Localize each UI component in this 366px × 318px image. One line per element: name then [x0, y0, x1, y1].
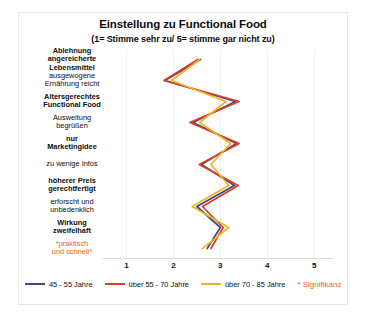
category-label-line: zu wenige Infos — [41, 160, 103, 169]
chart-title: Einstellung zu Functional Food — [19, 18, 347, 30]
category-label-8: Wirkungzweifelhaft — [41, 219, 103, 236]
category-axis-labels: AblehnungangereicherteLebensmittelausgew… — [41, 49, 103, 259]
legend-swatch-icon — [201, 283, 221, 285]
legend-item-0[interactable]: 45 - 55 Jahre — [25, 280, 93, 289]
series-line-0 — [165, 60, 236, 249]
value-tick-5: 5 — [304, 261, 324, 270]
value-tick-2: 2 — [163, 261, 183, 270]
category-label-9: *praktischund schnell* — [41, 240, 103, 257]
value-axis-labels: 12345 — [103, 261, 333, 273]
series-lines — [103, 49, 333, 259]
legend-label: 45 - 55 Jahre — [49, 280, 93, 289]
category-label-6: höherer Preisgerechtfertigt — [41, 177, 103, 194]
category-label-line: Ernährung reicht — [41, 80, 103, 89]
category-label-4: nurMarketingidee — [41, 135, 103, 152]
category-label-line: Marketingidee — [41, 143, 103, 152]
legend-label: über 55 - 70 Jahre — [129, 280, 189, 289]
chart-legend: 45 - 55 Jahreüber 55 - 70 Jahreüber 70 -… — [25, 276, 343, 292]
legend-swatch-icon — [105, 283, 125, 285]
series-line-1 — [164, 60, 239, 249]
category-label-0: AblehnungangereicherteLebensmittel — [41, 47, 103, 73]
series-line-2 — [172, 60, 231, 249]
category-label-line: zweifelhaft — [41, 227, 103, 236]
chart-subtitle: (1= Stimme sehr zu/ 5= stimme gar nicht … — [19, 34, 347, 44]
plot-area — [103, 49, 333, 259]
legend-swatch-icon — [25, 283, 45, 285]
value-tick-3: 3 — [210, 261, 230, 270]
legend-item-2[interactable]: über 70 - 85 Jahre — [201, 280, 285, 289]
value-tick-1: 1 — [116, 261, 136, 270]
legend-label: über 70 - 85 Jahre — [225, 280, 285, 289]
category-label-5: zu wenige Infos — [41, 160, 103, 169]
value-tick-4: 4 — [257, 261, 277, 270]
category-label-1: ausgewogeneErnährung reicht — [41, 72, 103, 89]
category-label-7: erforscht undunbedenklich — [41, 198, 103, 215]
category-label-line: unbedenklich — [41, 206, 103, 215]
category-label-line: und schnell* — [41, 248, 103, 257]
chart-card: Einstellung zu Functional Food (1= Stimm… — [18, 12, 348, 305]
category-label-line: begrüßen — [41, 122, 103, 131]
category-label-line: gerechtfertigt — [41, 185, 103, 194]
legend-significance-note: * Signifikanz — [297, 280, 341, 289]
category-label-line: Functional Food — [41, 101, 103, 110]
legend-item-1[interactable]: über 55 - 70 Jahre — [105, 280, 189, 289]
legend-significance-label: * Signifikanz — [297, 280, 341, 289]
category-label-3: Ausweitungbegrüßen — [41, 114, 103, 131]
category-label-2: AltersgerechtesFunctional Food — [41, 93, 103, 110]
